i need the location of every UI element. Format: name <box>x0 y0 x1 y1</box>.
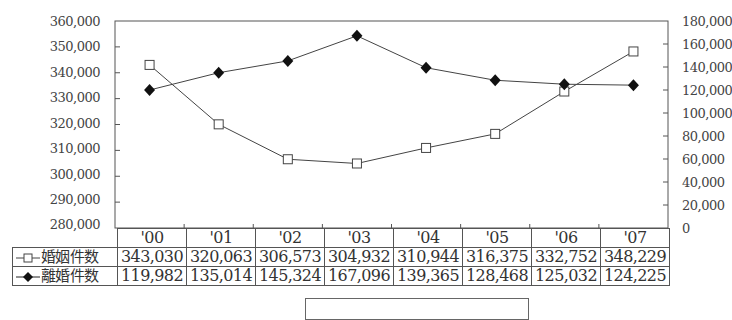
series-name: 婚姻件数 <box>41 248 99 266</box>
open-square-marker-icon <box>145 60 154 69</box>
table-cell: 125,032 <box>532 267 601 286</box>
open-square-marker-icon <box>214 120 223 129</box>
series-label-divorce: 離婚件数 <box>13 267 118 286</box>
table-header-cell: '06 <box>532 229 601 248</box>
table-header-cell: '03 <box>325 229 394 248</box>
table-cell: 310,944 <box>394 248 463 267</box>
open-square-marker-icon <box>491 129 500 138</box>
table-header-cell: '02 <box>256 229 325 248</box>
table-cell: 306,573 <box>256 248 325 267</box>
table-header-cell: '01 <box>187 229 256 248</box>
filled-diamond-marker-icon <box>628 79 639 91</box>
filled-diamond-marker-icon <box>144 84 155 96</box>
table-cell: 124,225 <box>601 267 670 286</box>
table-cell: 145,324 <box>256 267 325 286</box>
table-cell: 320,063 <box>187 248 256 267</box>
table-cell: 316,375 <box>463 248 532 267</box>
filled-diamond-marker-icon <box>490 74 501 86</box>
open-square-marker-icon <box>629 47 638 56</box>
table-cell: 135,014 <box>187 267 256 286</box>
filled-diamond-marker-icon <box>421 62 432 74</box>
table-cell: 348,229 <box>601 248 670 267</box>
table-corner <box>13 229 118 248</box>
table-header-row: '00 '01 '02 '03 '04 '05 '06 '07 <box>13 229 670 248</box>
table-header-cell: '07 <box>601 229 670 248</box>
data-table: '00 '01 '02 '03 '04 '05 '06 '07 婚姻件数 343… <box>12 228 670 286</box>
series-name: 離婚件数 <box>41 267 99 285</box>
filled-diamond-marker-icon <box>15 271 41 283</box>
table-row: 離婚件数 119,982 135,014 145,324 167,096 139… <box>13 267 670 286</box>
filled-diamond-marker-icon <box>282 55 293 67</box>
series-label-marriage: 婚姻件数 <box>13 248 118 267</box>
table-cell: 128,468 <box>463 267 532 286</box>
open-square-marker-icon <box>283 155 292 164</box>
table-cell: 139,365 <box>394 267 463 286</box>
open-square-marker-icon <box>15 252 41 264</box>
table-cell: 119,982 <box>118 267 187 286</box>
open-square-marker-icon <box>422 143 431 152</box>
table-cell: 304,932 <box>325 248 394 267</box>
table-header-cell: '04 <box>394 229 463 248</box>
table-row: 婚姻件数 343,030 320,063 306,573 304,932 310… <box>13 248 670 267</box>
filled-diamond-marker-icon <box>351 30 362 42</box>
table-cell: 332,752 <box>532 248 601 267</box>
table-cell: 343,030 <box>118 248 187 267</box>
table-header-cell: '00 <box>118 229 187 248</box>
cut-off-caption-box <box>305 298 529 320</box>
table-cell: 167,096 <box>325 267 394 286</box>
table-header-cell: '05 <box>463 229 532 248</box>
open-square-marker-icon <box>352 159 361 168</box>
filled-diamond-marker-icon <box>213 67 224 79</box>
